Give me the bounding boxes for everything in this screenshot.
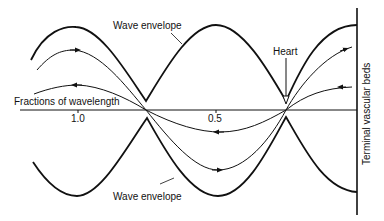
top-wave-envelope xyxy=(31,25,357,101)
bottom-envelope-label: Wave envelope xyxy=(113,192,182,202)
tick-label-1: 1.0 xyxy=(71,114,85,124)
axis-label: Fractions of wavelength xyxy=(14,97,120,107)
tick-label-05: 0.5 xyxy=(208,114,222,124)
bottom-envelope-leader xyxy=(160,178,174,184)
top-envelope-label: Wave envelope xyxy=(113,21,182,31)
wave-right-inner xyxy=(286,87,352,110)
heart-arrow-icon xyxy=(283,96,289,104)
terminal-vascular-beds-label: Terminal vascular beds xyxy=(362,63,372,165)
heart-label: Heart xyxy=(273,47,297,57)
wave-envelope-diagram: Wave envelope Wave envelope Heart Fracti… xyxy=(0,0,384,221)
top-envelope-leader xyxy=(171,33,182,44)
diagram-graphics xyxy=(0,0,384,221)
